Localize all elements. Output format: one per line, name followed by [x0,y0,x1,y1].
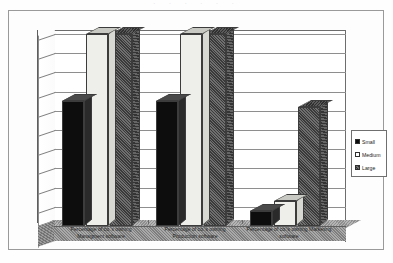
bar-side [84,94,92,226]
cut-off-caption-fragment: · · · · · · [0,0,393,7]
category-label-3: Percentage of co.'s owning Marketing sof… [234,226,344,240]
legend-label-medium: Medium [362,152,380,158]
legend-item-small: Small [355,135,386,148]
category-tick [242,220,243,224]
bar-side [108,27,116,226]
bar-face [250,211,272,226]
legend-swatch-large [355,165,360,170]
bar-side [226,27,234,226]
bar-side [178,94,186,226]
legend-swatch-medium [355,152,360,157]
plot-side-wall [38,30,55,248]
bar-small-group-2 [156,101,178,226]
chart-page: · · · · · · 0%10%20%30%40%50%60%70%80%90… [0,0,393,263]
bar-small-group-1 [62,101,84,226]
bar-side [132,27,140,226]
bar-face [156,101,178,226]
legend-swatch-small [355,139,360,144]
chart-frame: 0%10%20%30%40%50%60%70%80%90%100% Percen… [8,10,384,250]
bar-small-group-3 [250,211,272,226]
chart-legend: Small Medium Large [351,130,387,177]
legend-label-large: Large [362,165,375,171]
plot-area [54,30,346,242]
bar-face [62,101,84,226]
legend-item-large: Large [355,161,386,174]
category-tick [148,220,149,224]
bar-side [202,27,210,226]
legend-item-medium: Medium [355,148,386,161]
legend-label-small: Small [362,139,375,145]
bar-side [320,100,328,226]
